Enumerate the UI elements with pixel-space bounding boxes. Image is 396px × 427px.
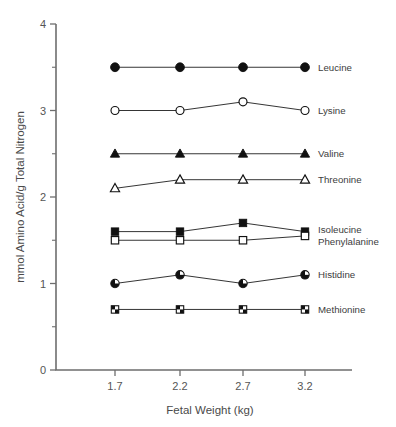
data-point [239, 237, 246, 244]
x-tick-label: 1.7 [107, 380, 122, 392]
y-tick-label: 0 [40, 364, 46, 376]
data-point [301, 63, 310, 72]
series-phenylalanine [111, 232, 308, 244]
series-line [115, 102, 305, 111]
data-point [176, 237, 183, 244]
series-label-histidine: Histidine [318, 269, 355, 280]
series-lysine [111, 98, 309, 115]
data-point [111, 279, 119, 287]
series-labels-layer: LeucineLysineValineThreonineIsoleucinePh… [318, 62, 379, 315]
chart-figure: 012341.72.22.73.2 LeucineLysineValineThr… [0, 0, 396, 427]
series-label-threonine: Threonine [318, 174, 362, 185]
data-point [111, 63, 120, 72]
data-point [239, 279, 247, 287]
axes: 012341.72.22.73.2 [40, 18, 352, 392]
data-point [176, 306, 183, 313]
data-point [300, 175, 309, 183]
line-chart: 012341.72.22.73.2 LeucineLysineValineThr… [0, 0, 396, 427]
data-point [175, 175, 184, 183]
series-line [115, 275, 305, 284]
data-point [110, 149, 119, 157]
series-histidine [111, 271, 309, 288]
data-point [239, 63, 248, 72]
data-point [111, 107, 119, 115]
series-label-phenylalanine: Phenylalanine [318, 236, 379, 247]
data-point [111, 228, 118, 235]
data-point [176, 271, 184, 279]
x-tick-label: 2.2 [172, 380, 187, 392]
data-point [111, 237, 118, 244]
y-tick-label: 1 [40, 278, 46, 290]
series-leucine [111, 63, 310, 72]
x-tick-label: 2.7 [235, 380, 250, 392]
data-point [176, 63, 185, 72]
series-methionine [111, 306, 308, 313]
series-label-valine: Valine [318, 148, 344, 159]
x-axis-title: Fetal Weight (kg) [166, 404, 254, 416]
series-threonine [110, 175, 309, 192]
data-point [176, 228, 183, 235]
data-point [176, 107, 184, 115]
y-tick-label: 2 [40, 191, 46, 203]
data-point [239, 219, 246, 226]
data-point [301, 306, 308, 313]
series-isoleucine [111, 219, 308, 235]
data-point [301, 107, 309, 115]
series-label-leucine: Leucine [318, 62, 352, 73]
series-line [115, 223, 305, 232]
data-series-layer [110, 63, 309, 313]
y-tick-label: 3 [40, 105, 46, 117]
series-valine [110, 149, 309, 157]
data-point [239, 306, 246, 313]
series-label-methionine: Methionine [318, 304, 365, 315]
series-line [115, 236, 305, 240]
data-point [175, 149, 184, 157]
y-tick-label: 4 [40, 18, 46, 30]
series-label-lysine: Lysine [318, 105, 346, 116]
series-label-isoleucine: Isoleucine [318, 224, 362, 235]
x-tick-label: 3.2 [297, 380, 312, 392]
y-axis-title: mmol Amino Acid/g Total Nitrogen [14, 111, 26, 283]
data-point [238, 175, 247, 183]
data-point [238, 149, 247, 157]
data-point [301, 271, 309, 279]
series-line [115, 180, 305, 189]
data-point [239, 98, 247, 106]
data-point [301, 232, 308, 239]
data-point [111, 306, 118, 313]
axis-spines [56, 24, 352, 370]
data-point [300, 149, 309, 157]
